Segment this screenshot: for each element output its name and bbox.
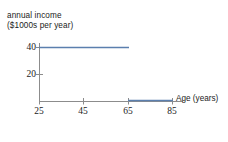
y-tick-label-20: 20 <box>18 69 36 79</box>
x-axis-title: Age (years) <box>176 94 218 104</box>
income-vs-age-chart: annual income ($1000s per year) 40 20 25… <box>0 0 228 142</box>
x-tick-label-85: 85 <box>162 106 182 116</box>
y-tick-label-40: 40 <box>18 42 36 52</box>
x-tick-label-45: 45 <box>73 106 93 116</box>
x-tick-label-25: 25 <box>29 106 49 116</box>
x-tick-label-65: 65 <box>118 106 138 116</box>
